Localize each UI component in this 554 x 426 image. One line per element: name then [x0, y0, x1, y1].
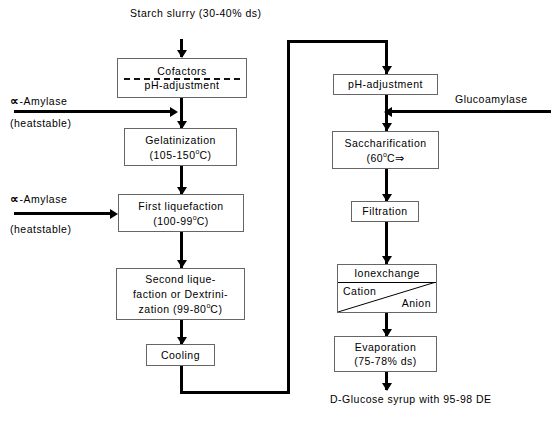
- node-ionexchange[interactable]: Ionexchange Cation Anion: [337, 264, 437, 313]
- product-line2: with 95-98 DE: [419, 393, 491, 405]
- crosslink-segment-right-top: [287, 40, 388, 43]
- arrowhead-amylase2: [110, 209, 118, 219]
- amylase-input-2-name: ∝-Amylase: [10, 191, 67, 208]
- product-line1: D-Glucose syrup: [330, 393, 416, 405]
- node-ph-adjustment[interactable]: pH-adjustment: [333, 74, 438, 95]
- connector-glucoamylase-to-column: [391, 110, 551, 113]
- node-filtration[interactable]: Filtration: [351, 201, 419, 222]
- amylase-input-1-note: (heatstable): [10, 116, 71, 131]
- starch-slurry-line1: Starch slurry: [130, 7, 195, 19]
- ph-adjustment-label-left: pH-adjustment: [145, 78, 220, 92]
- node-gelatinization[interactable]: Gelatinization (105-150oC): [124, 128, 237, 166]
- product-label: D-Glucose syrup with 95-98 DE: [330, 392, 442, 407]
- cofactors-divider: [124, 78, 240, 80]
- crosslink-segment-up-right-side: [287, 40, 290, 394]
- gelatinization-label: Gelatinization: [145, 133, 216, 147]
- saccharification-label: Saccharification: [344, 136, 426, 150]
- node-second-liquefaction[interactable]: Second lique- faction or Dextrini- zatio…: [116, 268, 245, 320]
- amylase-input-2-note: (heatstable): [10, 222, 71, 237]
- starch-slurry-line2: (30-40% ds): [199, 7, 262, 19]
- crosslink-segment-down-from-cooling: [180, 366, 183, 394]
- ionexchange-header: Ionexchange: [338, 265, 436, 282]
- crosslink-segment-right-bottom: [180, 391, 290, 394]
- second-liquefaction-line1: Second lique-: [145, 272, 216, 286]
- arrowhead-evaporation-to-product: [382, 383, 392, 391]
- starch-slurry-label: Starch slurry (30-40% ds): [130, 6, 234, 21]
- first-liquefaction-label: First liquefaction: [138, 199, 223, 213]
- arrowhead-slurry-to-cofactors: [177, 50, 187, 58]
- node-cofactors-ph-adjustment[interactable]: Cofactors pH-adjustment: [117, 58, 247, 98]
- node-cooling[interactable]: Cooling: [146, 344, 215, 366]
- glucoamylase-input-label: Glucoamylase: [455, 92, 528, 107]
- second-liquefaction-line2: faction or Dextrini-: [133, 287, 228, 301]
- ionexchange-anion-label: Anion: [402, 296, 431, 310]
- alpha-symbol-2: ∝: [10, 192, 20, 206]
- amylase-1-text: -Amylase: [20, 95, 68, 107]
- amylase-input-1-name: ∝-Amylase: [10, 93, 67, 110]
- gelatinization-temperature: (105-150oC): [149, 147, 211, 162]
- amylase-2-text: -Amylase: [20, 193, 68, 205]
- evaporation-concentration: (75-78% ds): [354, 354, 417, 368]
- ph-adjustment-label-right: pH-adjustment: [348, 77, 423, 91]
- evaporation-label: Evaporation: [355, 340, 417, 354]
- arrowhead-ph-adjustment-to-saccharification: [382, 123, 392, 131]
- saccharification-temperature: (60oC⇒: [366, 150, 404, 165]
- ionexchange-body: Cation Anion: [338, 282, 436, 312]
- arrowhead-glucoamylase: [384, 107, 392, 117]
- first-liquefaction-temperature: (100-99oC): [153, 213, 209, 228]
- connector-amylase2-to-column: [14, 212, 114, 215]
- node-saccharification[interactable]: Saccharification (60oC⇒: [332, 131, 439, 169]
- ionexchange-cation-label: Cation: [343, 284, 376, 298]
- cofactors-label: Cofactors: [157, 64, 206, 78]
- arrowhead-amylase1: [170, 107, 178, 117]
- second-liquefaction-line3: zation (99-80oC): [139, 301, 223, 316]
- arrowhead-filtration-to-ionexchange: [382, 256, 392, 264]
- connector-amylase1-to-column: [14, 110, 174, 113]
- cooling-label: Cooling: [161, 348, 200, 362]
- arrowhead-first-to-second-liquefaction: [177, 260, 187, 268]
- node-evaporation[interactable]: Evaporation (75-78% ds): [334, 336, 437, 372]
- arrowhead-crosslink-to-ph-adjustment: [382, 66, 392, 74]
- flow-diagram: Starch slurry (30-40% ds) Cofactors pH-a…: [0, 0, 554, 426]
- alpha-symbol-1: ∝: [10, 94, 20, 108]
- node-first-liquefaction[interactable]: First liquefaction (100-99oC): [118, 194, 244, 232]
- filtration-label: Filtration: [362, 204, 407, 218]
